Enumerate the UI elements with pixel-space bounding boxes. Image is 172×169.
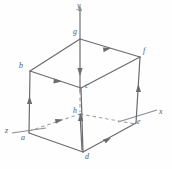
edge-d-e bbox=[83, 123, 136, 152]
arrow-edge-d-e bbox=[103, 138, 111, 143]
cube-diagram-figure: y x z g f b c h e a d bbox=[0, 0, 172, 169]
axis-label-z: z bbox=[5, 127, 8, 135]
vertex-label-d: d bbox=[85, 153, 89, 161]
axis-group bbox=[12, 8, 157, 133]
arrow-edge-f-e bbox=[136, 84, 141, 92]
visible-edges-group bbox=[29, 39, 140, 152]
axis-label-x: x bbox=[159, 108, 163, 116]
vertex-label-h: h bbox=[73, 107, 77, 115]
vertex-label-e: e bbox=[137, 118, 141, 126]
edge-c-f bbox=[81, 57, 140, 88]
vertex-label-f: f bbox=[143, 47, 145, 55]
axis-label-y: y bbox=[77, 2, 81, 10]
vertex-label-c: c bbox=[85, 82, 89, 90]
arrow-edge-g-f bbox=[103, 48, 111, 53]
edge-b-g bbox=[30, 39, 80, 71]
edge-a-d bbox=[29, 133, 83, 152]
vertex-label-b: b bbox=[19, 62, 23, 70]
arrow-edge-g-h bbox=[77, 68, 82, 76]
arrow-edge-b-a bbox=[27, 96, 32, 104]
edge-a-h-hidden bbox=[29, 114, 80, 131]
arrow-edge-a-h bbox=[55, 119, 63, 124]
vertex-label-g: g bbox=[73, 28, 77, 36]
vertex-label-a: a bbox=[21, 134, 25, 142]
